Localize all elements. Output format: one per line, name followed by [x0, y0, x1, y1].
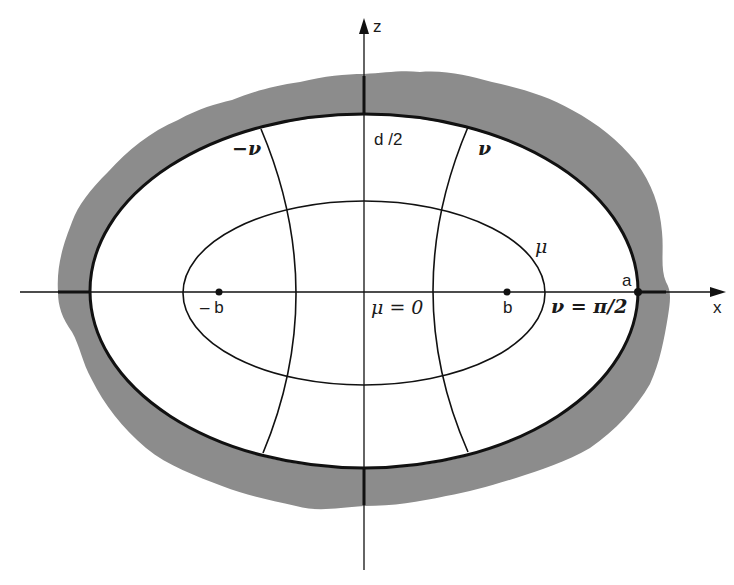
minus-nu-label: −ν [232, 137, 261, 159]
vertex-a-point [634, 288, 642, 296]
hyperbola-minus-nu [261, 129, 296, 453]
diagram-canvas: z x d /2 −ν ν μ μ = 0 – b b a ν = π/2 [0, 0, 734, 585]
mu-label: μ [535, 235, 547, 257]
b-label: b [503, 298, 512, 317]
x-axis-label: x [713, 298, 722, 317]
x-axis-arrow-icon [710, 287, 726, 297]
a-label: a [622, 271, 632, 290]
coordinate-diagram: z x d /2 −ν ν μ μ = 0 – b b a ν = π/2 [0, 0, 734, 585]
hyperbola-nu [433, 127, 468, 452]
z-axis-label: z [373, 17, 382, 36]
mu-zero-label: μ = 0 [371, 296, 423, 318]
focus-minus-b-point [216, 289, 223, 296]
focus-b-point [504, 289, 511, 296]
z-axis-arrow-icon [359, 18, 369, 34]
nu-pi-half-label: ν = π/2 [551, 295, 627, 317]
minus-b-label: – b [200, 298, 224, 317]
nu-label: ν [478, 137, 491, 159]
half-depth-label: d /2 [374, 130, 402, 149]
